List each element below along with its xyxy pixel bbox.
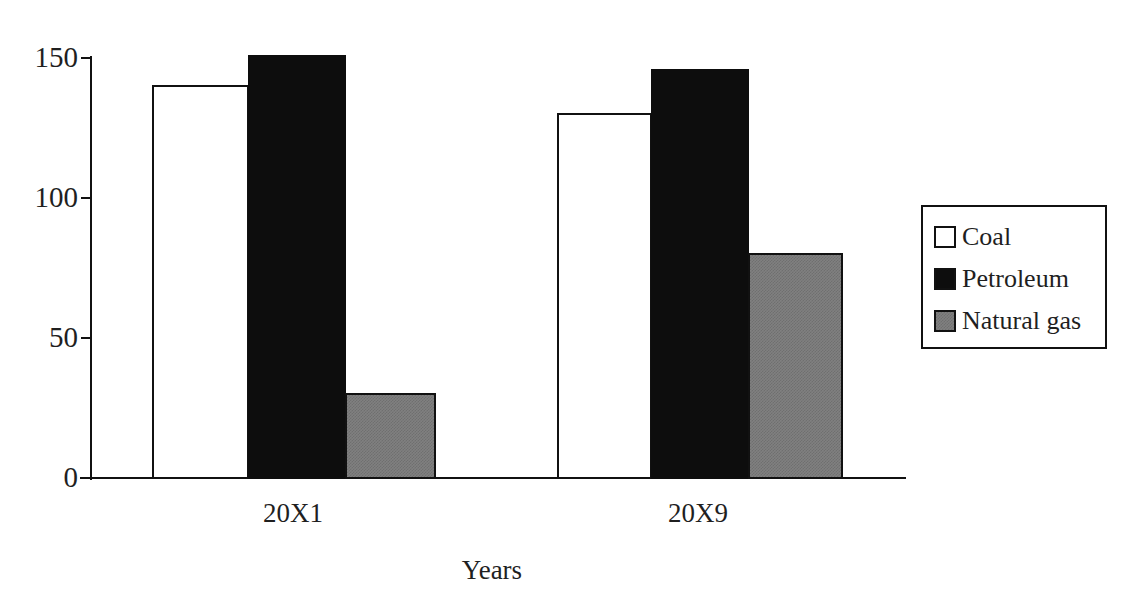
legend-swatch-petroleum-icon xyxy=(934,268,956,290)
legend-item-natural-gas: Natural gas xyxy=(934,300,1105,342)
bar-20x1-petroleum xyxy=(248,55,346,479)
y-tick-0 xyxy=(81,477,91,479)
y-tick-label-100: 100 xyxy=(8,183,78,212)
y-tick-label-150: 150 xyxy=(8,43,78,72)
legend-label-coal: Coal xyxy=(962,224,1011,250)
y-axis-line xyxy=(90,56,92,480)
legend-swatch-natural-gas-icon xyxy=(934,310,956,332)
bar-20x9-natural-gas xyxy=(748,253,843,479)
bar-20x1-natural-gas xyxy=(345,393,436,479)
legend-swatch-coal-icon xyxy=(934,226,956,248)
bar-20x9-coal xyxy=(557,113,652,479)
legend-item-petroleum: Petroleum xyxy=(934,258,1105,300)
legend-label-natural-gas: Natural gas xyxy=(962,308,1081,334)
bar-20x9-petroleum xyxy=(651,69,749,479)
legend-item-coal: Coal xyxy=(934,216,1105,258)
y-tick-150 xyxy=(81,57,91,59)
bar-chart: 150 100 50 0 20X1 20X9 Years Coal Petrol… xyxy=(0,0,1141,601)
y-tick-label-0: 0 xyxy=(8,463,78,492)
x-tick-label-20x9: 20X9 xyxy=(598,500,798,527)
y-tick-label-50: 50 xyxy=(8,323,78,352)
bar-20x1-coal xyxy=(152,85,249,479)
legend: Coal Petroleum Natural gas xyxy=(921,205,1107,349)
x-tick-label-20x1: 20X1 xyxy=(193,500,393,527)
y-tick-50 xyxy=(81,337,91,339)
x-axis-title: Years xyxy=(372,557,612,584)
legend-label-petroleum: Petroleum xyxy=(962,266,1069,292)
y-tick-100 xyxy=(81,197,91,199)
